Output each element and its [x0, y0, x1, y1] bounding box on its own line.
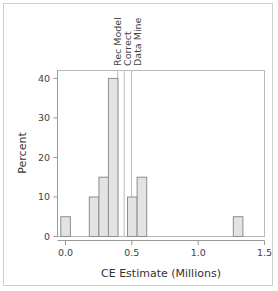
x-tick-label-0-5: 0.5 — [124, 247, 139, 258]
x-tick-label-1-5: 1.5 — [257, 247, 272, 258]
reference-line-labels: Rec Model Correct Data Mine — [112, 17, 143, 66]
x-axis-title: CE Estimate (Millions) — [101, 267, 221, 280]
y-tick-label-10: 10 — [38, 191, 50, 202]
bar-3 — [108, 78, 118, 236]
x-tick-label-1-0: 1.0 — [191, 247, 206, 258]
bar-1 — [89, 197, 99, 237]
y-axis-title: Percent — [16, 132, 29, 174]
histogram-bars — [61, 78, 243, 236]
y-axis-ticks — [54, 78, 58, 236]
refline-label-data-mine: Data Mine — [132, 17, 143, 66]
histogram-chart: Rec Model Correct Data Mine 0 10 20 30 4… — [0, 0, 278, 291]
bar-2 — [99, 177, 109, 236]
x-axis-tick-labels: 0.0 0.5 1.0 1.5 — [58, 247, 272, 258]
bar-6 — [233, 217, 243, 237]
y-tick-label-20: 20 — [38, 152, 50, 163]
y-tick-label-0: 0 — [44, 231, 50, 242]
y-axis-tick-labels: 0 10 20 30 40 — [38, 73, 50, 242]
y-tick-label-30: 30 — [38, 112, 50, 123]
y-tick-label-40: 40 — [38, 73, 50, 84]
bar-4 — [128, 197, 138, 237]
x-tick-label-0: 0.0 — [58, 247, 73, 258]
x-axis-ticks — [66, 241, 265, 246]
bar-5 — [137, 177, 147, 236]
bar-0 — [61, 217, 71, 237]
plot-area-border — [58, 71, 265, 237]
